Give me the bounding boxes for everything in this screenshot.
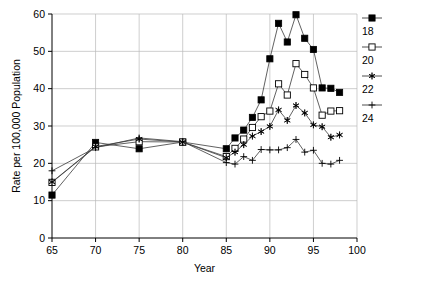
y-tick-label-60: 60 [33,8,45,20]
y-tick-label-50: 50 [33,45,45,57]
data-point-marker [223,159,230,166]
data-point-marker [369,102,376,109]
x-tick-label-95: 95 [308,244,320,256]
legend-label-22: 22 [362,83,374,95]
data-point-marker [266,146,273,153]
data-point-marker [302,35,308,41]
series-20 [49,61,343,186]
y-tick-label-20: 20 [33,157,45,169]
legend-item-20[interactable]: 20 [362,44,382,66]
x-tick-label-75: 75 [133,244,145,256]
data-point-marker [258,114,264,120]
data-point-marker [136,146,142,152]
data-point-marker [223,146,229,152]
data-point-marker [369,15,375,21]
series-markers-18 [49,12,343,199]
data-point-marker [249,124,255,130]
data-point-marker [49,167,56,174]
legend: 18202224 [362,15,382,124]
data-point-marker [284,92,290,98]
data-point-marker [369,44,375,50]
data-point-marker [267,108,273,114]
data-point-marker [327,161,334,168]
data-point-marker [328,85,334,91]
y-tick-label-30: 30 [33,120,45,132]
data-point-marker [241,127,247,133]
line-chart: 0102030405060 65707580859095100 YearRate… [0,0,423,281]
data-point-marker [310,147,317,154]
legend-item-24[interactable]: 24 [362,102,382,124]
data-point-marker [241,136,247,142]
chart-container: 0102030405060 65707580859095100 YearRate… [0,0,423,281]
data-point-marker [336,89,342,95]
data-point-marker [232,135,238,141]
x-tick-label-100: 100 [348,244,366,256]
y-tick-labels: 0102030405060 [33,8,45,244]
legend-label-24: 24 [362,112,374,124]
data-point-marker [293,12,299,18]
y-axis-title: Rate per 100,000 Population [10,59,22,193]
data-point-marker [249,114,255,120]
data-point-marker [293,102,299,109]
x-tick-labels: 65707580859095100 [46,244,366,256]
data-point-marker [319,160,326,167]
x-tick-label-65: 65 [46,244,58,256]
x-tick-label-80: 80 [177,244,189,256]
data-point-marker [258,97,264,103]
data-point-marker [310,46,316,52]
legend-item-22[interactable]: 22 [362,73,382,95]
x-tick-label-70: 70 [90,244,102,256]
legend-label-18: 18 [362,25,374,37]
legend-item-18[interactable]: 18 [362,15,382,37]
x-tick-label-90: 90 [264,244,276,256]
data-point-marker [301,149,308,156]
series-18 [49,12,343,199]
y-tick-label-10: 10 [33,194,45,206]
data-point-marker [284,39,290,45]
data-point-marker [336,157,343,164]
data-point-marker [275,81,281,87]
data-point-marker [302,71,308,77]
data-point-marker [336,108,342,114]
data-point-marker [337,132,343,139]
data-point-marker [258,128,264,135]
data-point-marker [49,192,55,198]
data-point-marker [267,56,273,62]
data-point-marker [319,85,325,91]
x-tick-label-85: 85 [220,244,232,256]
data-point-marker [310,85,316,91]
y-tick-label-40: 40 [33,82,45,94]
x-axis-title: Year [194,262,216,274]
data-point-marker [275,146,282,153]
series-line-20 [52,64,340,183]
series-group [49,12,343,199]
data-point-marker [328,108,334,114]
data-point-marker [275,20,281,26]
y-tick-label-0: 0 [39,232,45,244]
data-point-marker [267,123,273,130]
series-markers-20 [49,61,343,186]
data-point-marker [293,61,299,67]
legend-label-20: 20 [362,54,374,66]
data-point-marker [319,112,325,118]
